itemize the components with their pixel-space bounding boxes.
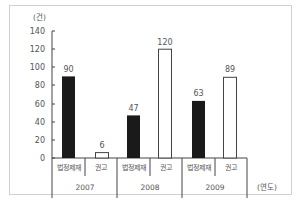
sub-label: 권고 [95, 164, 108, 172]
year-label: 2008 [140, 183, 159, 192]
y-tick-label: 20 [35, 136, 45, 145]
value-label: 6 [99, 141, 104, 150]
sub-label: 권고 [160, 164, 173, 172]
y-tick-labels: 0 20 40 60 80 100 120 140 [30, 27, 45, 163]
series-beopjeong [62, 76, 205, 158]
year-label: 2009 [205, 183, 224, 192]
bar-chart: 0 20 40 60 80 100 120 140 (건) 90 6 47 12… [0, 0, 298, 206]
sub-label: 권고 [225, 164, 238, 172]
subcategory-labels: 법정제재 권고 법정제재 권고 법정제재 권고 [57, 163, 238, 172]
year-label: 2007 [75, 183, 94, 192]
y-tick-label: 100 [30, 63, 45, 72]
series-gwongo [96, 49, 237, 158]
sub-label: 법정제재 [57, 163, 81, 172]
bar-2009-gwongo [224, 77, 237, 158]
y-tick-label: 140 [30, 27, 45, 36]
y-tick-label: 120 [30, 45, 45, 54]
value-label: 47 [128, 104, 138, 113]
value-labels: 90 6 47 120 63 89 [63, 38, 235, 150]
y-tick-label: 80 [35, 81, 45, 90]
y-tick-label: 40 [35, 118, 45, 127]
bar-2007-beopjeong [62, 76, 75, 158]
bar-2008-beopjeong [127, 115, 140, 158]
bar-2009-beopjeong [192, 101, 205, 158]
y-tick-label: 60 [35, 100, 45, 109]
bar-2008-gwongo [159, 49, 172, 158]
bar-2007-gwongo [96, 153, 109, 158]
y-tick-label: 0 [40, 154, 45, 163]
value-label: 120 [157, 38, 172, 47]
value-label: 63 [193, 89, 203, 98]
y-axis-unit: (건) [33, 12, 46, 22]
sub-label: 법정제재 [122, 163, 146, 172]
sub-label: 법정제재 [187, 163, 211, 172]
year-labels: 2007 2008 2009 [75, 183, 224, 192]
value-label: 90 [63, 65, 73, 74]
value-label: 89 [225, 65, 235, 74]
x-axis-unit: (연도) [257, 183, 277, 192]
